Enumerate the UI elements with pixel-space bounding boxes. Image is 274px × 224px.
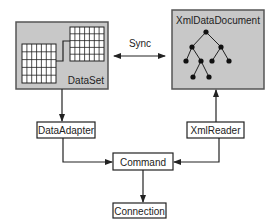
dataset-label: DataSet (68, 75, 104, 86)
xmlreader-to-command-edge (174, 138, 219, 162)
sync-label: Sync (129, 38, 151, 49)
dataadapter-label: DataAdapter (38, 125, 95, 136)
connection-node: Connection (113, 203, 166, 218)
xmldatadocument-label: XmlDataDocument (176, 15, 260, 26)
dataadapter-node: DataAdapter (37, 122, 95, 138)
command-node: Command (113, 153, 173, 170)
command-label: Command (120, 157, 166, 168)
connection-label: Connection (114, 206, 165, 217)
xmldatadocument-node: XmlDataDocument (172, 10, 264, 89)
dataadapter-to-command-edge (63, 138, 112, 162)
dataset-node: DataSet (16, 22, 108, 89)
sync-edge: Sync (113, 38, 165, 59)
ado-net-architecture-diagram: DataSet XmlDataDocument (0, 0, 274, 224)
xmlreader-label: XmlReader (190, 125, 241, 136)
xmlreader-node: XmlReader (187, 122, 244, 138)
